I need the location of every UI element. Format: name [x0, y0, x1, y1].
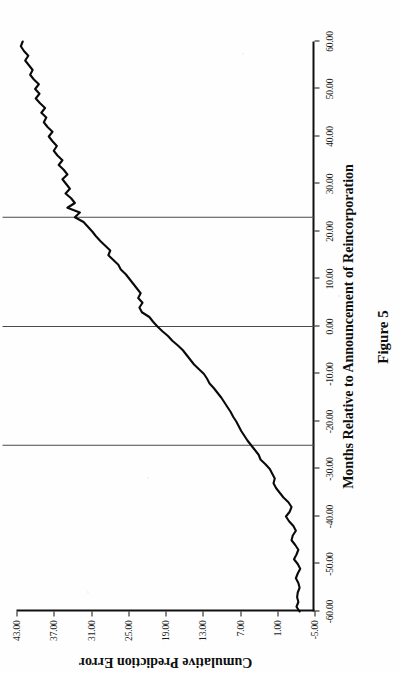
y-tick: [240, 611, 241, 616]
y-tick-label: 37.00: [48, 620, 58, 640]
x-tick-label: -50.00: [324, 552, 334, 575]
x-tick: [314, 373, 319, 374]
y-tick: [314, 611, 315, 616]
x-tick-label: 30.00: [324, 173, 334, 193]
figure-caption: Figure 5: [374, 310, 391, 363]
x-tick-label: -10.00: [324, 362, 334, 385]
y-tick: [277, 611, 278, 616]
y-tick-label: -5.00: [309, 620, 319, 639]
x-tick: [314, 468, 319, 469]
y-tick-label: 43.00: [11, 620, 21, 640]
y-tick: [53, 611, 54, 616]
y-tick-label: 7.00: [235, 620, 245, 636]
y-tick-label: 25.00: [123, 620, 133, 640]
x-tick-label: -30.00: [324, 457, 334, 480]
x-tick: [314, 278, 319, 279]
x-tick: [314, 88, 319, 89]
y-axis-title: Cumulative Prediction Error: [78, 653, 252, 669]
x-tick: [314, 230, 319, 231]
x-axis-title: Months Relative to Announcement of Reinc…: [340, 164, 356, 489]
x-tick-label: -20.00: [324, 409, 334, 432]
x-tick: [314, 420, 319, 421]
y-tick-label: 19.00: [160, 620, 170, 640]
x-tick-label: 10.00: [324, 268, 334, 288]
x-tick: [314, 325, 319, 326]
x-tick: [314, 40, 319, 41]
x-tick-label: 50.00: [324, 78, 334, 98]
series-layer: [16, 41, 314, 611]
x-tick: [314, 183, 319, 184]
x-tick-label: -60.00: [324, 599, 334, 622]
series-line: [20, 41, 299, 611]
figure-container: -60.00-50.00-40.00-30.00-20.00-10.000.00…: [0, 0, 399, 673]
y-tick: [128, 611, 129, 616]
x-tick: [314, 515, 319, 516]
rotated-figure-stage: -60.00-50.00-40.00-30.00-20.00-10.000.00…: [0, 0, 399, 673]
y-tick: [16, 611, 17, 616]
y-tick: [165, 611, 166, 616]
y-tick: [202, 611, 203, 616]
x-tick: [314, 135, 319, 136]
x-tick-label: 60.00: [324, 31, 334, 51]
y-tick-label: 1.00: [272, 620, 282, 636]
scanned-page: -60.00-50.00-40.00-30.00-20.00-10.000.00…: [0, 0, 399, 673]
y-tick: [91, 611, 92, 616]
y-tick-label: 13.00: [197, 620, 207, 640]
x-tick-label: -40.00: [324, 504, 334, 527]
y-tick-label: 31.00: [86, 620, 96, 640]
x-tick: [314, 563, 319, 564]
plot-area: -60.00-50.00-40.00-30.00-20.00-10.000.00…: [16, 41, 314, 611]
x-tick-label: 20.00: [324, 221, 334, 241]
x-tick-label: 0.00: [324, 318, 334, 334]
x-tick-label: 40.00: [324, 126, 334, 146]
